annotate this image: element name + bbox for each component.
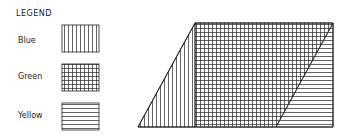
legend-swatch-blue [62,25,99,52]
legend-swatch-yellow [62,103,99,130]
legend-swatch-green [62,64,99,91]
diagram-canvas [0,0,350,138]
